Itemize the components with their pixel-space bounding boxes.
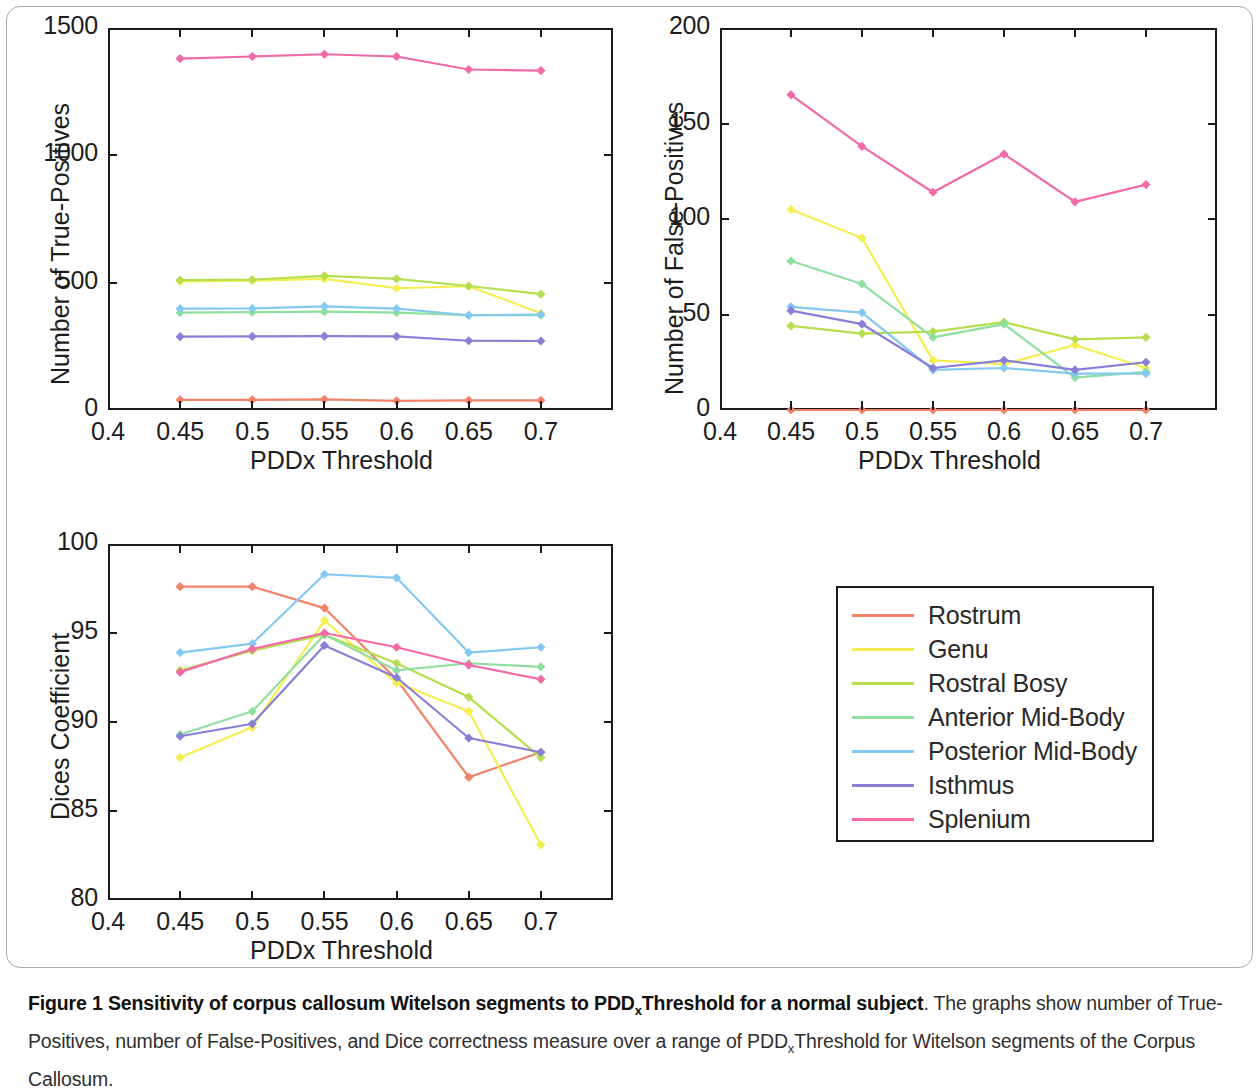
x-tick-label: 0.45: [140, 907, 220, 936]
x-tick-label: 0.65: [429, 907, 509, 936]
x-tick-mark: [251, 401, 253, 410]
x-tick-label: 0.45: [751, 417, 831, 446]
data-point-marker: [536, 336, 545, 345]
y-tick-label: 1500: [0, 11, 98, 40]
x-tick-label: 0.7: [1106, 417, 1186, 446]
legend-item-label: Splenium: [928, 805, 1031, 834]
x-tick-mark: [540, 544, 542, 553]
x-tick-mark: [179, 544, 181, 553]
y-tick-mark: [108, 632, 117, 634]
legend-color-swatch: [852, 716, 914, 719]
x-axis-label-dices-coefficient: PDDx Threshold: [250, 936, 433, 965]
x-tick-mark: [468, 891, 470, 900]
legend-item-rostral-bosy[interactable]: Rostral Bosy: [852, 666, 1152, 700]
y-tick-mark: [604, 810, 613, 812]
legend-color-swatch: [852, 818, 914, 821]
y-tick-mark: [108, 154, 117, 156]
x-tick-label: 0.7: [501, 417, 581, 446]
x-tick-label: 0.4: [680, 417, 760, 446]
x-tick-mark: [790, 401, 792, 410]
data-point-marker: [392, 332, 401, 341]
legend-item-genu[interactable]: Genu: [852, 632, 1152, 666]
series-line-isthmus: [791, 311, 1146, 370]
data-point-marker: [786, 321, 795, 330]
data-point-marker: [786, 256, 795, 265]
legend-item-rostrum[interactable]: Rostrum: [852, 598, 1152, 632]
x-tick-mark: [179, 401, 181, 410]
x-tick-label: 0.45: [140, 417, 220, 446]
legend-color-swatch: [852, 784, 914, 787]
y-tick-label: 200: [612, 11, 710, 40]
legend-color-swatch: [852, 648, 914, 651]
series-line-isthmus: [180, 336, 541, 341]
series-line-genu: [791, 209, 1146, 368]
x-tick-mark: [396, 891, 398, 900]
x-tick-label: 0.7: [501, 907, 581, 936]
caption-bold-tail: Threshold for a normal subject: [642, 992, 924, 1014]
y-tick-mark: [1208, 314, 1217, 316]
x-tick-mark: [179, 28, 181, 37]
x-tick-mark: [540, 28, 542, 37]
x-tick-mark: [790, 28, 792, 37]
x-tick-mark: [1145, 401, 1147, 410]
y-tick-mark: [720, 123, 729, 125]
data-point-marker: [536, 643, 545, 652]
data-point-marker: [1070, 335, 1079, 344]
x-tick-label: 0.55: [284, 907, 364, 936]
x-tick-mark: [468, 28, 470, 37]
figure-caption: Figure 1 Sensitivity of corpus callosum …: [28, 988, 1238, 1090]
y-tick-mark: [108, 282, 117, 284]
x-tick-label: 0.4: [68, 417, 148, 446]
series-line-posterior-mid-body: [180, 306, 541, 315]
x-axis-label-true-positives: PDDx Threshold: [250, 446, 433, 475]
x-tick-mark: [1003, 401, 1005, 410]
y-tick-label: 150: [612, 107, 710, 136]
x-tick-label: 0.5: [212, 907, 292, 936]
data-point-marker: [176, 276, 185, 285]
legend-item-anterior-mid-body[interactable]: Anterior Mid-Body: [852, 700, 1152, 734]
y-tick-label: 1000: [0, 138, 98, 167]
caption-bold-lead: Figure 1 Sensitivity of corpus callosum …: [28, 992, 635, 1014]
data-point-marker: [464, 311, 473, 320]
x-axis-label-false-positives: PDDx Threshold: [858, 446, 1041, 475]
series-line-rostral-bosy: [180, 276, 541, 294]
data-point-marker: [176, 332, 185, 341]
x-tick-mark: [251, 891, 253, 900]
legend-item-posterior-mid-body[interactable]: Posterior Mid-Body: [852, 734, 1152, 768]
data-point-marker: [1141, 333, 1150, 342]
data-point-marker: [786, 205, 795, 214]
x-tick-label: 0.55: [284, 417, 364, 446]
x-tick-label: 0.55: [893, 417, 973, 446]
y-tick-mark: [604, 721, 613, 723]
data-point-marker: [857, 234, 866, 243]
y-tick-mark: [1208, 218, 1217, 220]
x-tick-label: 0.65: [1035, 417, 1115, 446]
legend-item-isthmus[interactable]: Isthmus: [852, 768, 1152, 802]
x-tick-label: 0.5: [212, 417, 292, 446]
x-tick-mark: [251, 544, 253, 553]
y-tick-mark: [108, 810, 117, 812]
data-point-marker: [464, 660, 473, 669]
x-tick-label: 0.6: [357, 907, 437, 936]
y-tick-label: 500: [0, 266, 98, 295]
data-point-marker: [320, 332, 329, 341]
y-tick-label: 95: [0, 616, 98, 645]
data-point-marker: [392, 274, 401, 283]
x-tick-label: 0.5: [822, 417, 902, 446]
legend-item-label: Isthmus: [928, 771, 1014, 800]
x-tick-mark: [932, 28, 934, 37]
x-tick-mark: [861, 401, 863, 410]
data-point-marker: [1141, 180, 1150, 189]
x-tick-mark: [323, 891, 325, 900]
x-tick-mark: [1145, 28, 1147, 37]
data-point-marker: [176, 753, 185, 762]
x-tick-mark: [1074, 28, 1076, 37]
y-tick-mark: [108, 721, 117, 723]
legend-item-splenium[interactable]: Splenium: [852, 802, 1152, 836]
chart-panel-true-positives: Number of True-Positives PDDx Threshold …: [0, 0, 640, 490]
y-tick-mark: [604, 154, 613, 156]
series-line-anterior-mid-body: [791, 261, 1146, 378]
data-point-marker: [248, 332, 257, 341]
x-tick-mark: [323, 401, 325, 410]
data-point-marker: [536, 840, 545, 849]
